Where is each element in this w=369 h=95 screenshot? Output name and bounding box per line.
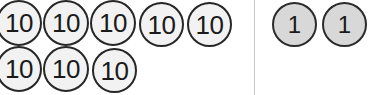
token-ten[interactable]: 10 <box>0 46 42 92</box>
token-ten[interactable]: 10 <box>92 48 137 93</box>
token-value-label: 10 <box>5 56 33 82</box>
token-ten[interactable]: 10 <box>43 0 89 46</box>
token-one[interactable]: 1 <box>322 2 367 47</box>
token-one[interactable]: 1 <box>272 2 317 47</box>
token-ten[interactable]: 10 <box>187 2 232 47</box>
token-ten[interactable]: 10 <box>90 0 136 46</box>
token-value-label: 10 <box>196 11 224 37</box>
token-value-label: 10 <box>101 57 129 83</box>
token-value-label: 10 <box>148 11 176 37</box>
token-value-label: 10 <box>52 10 80 36</box>
token-value-label: 1 <box>338 12 351 36</box>
token-ten[interactable]: 10 <box>0 0 42 46</box>
token-ten[interactable]: 10 <box>43 46 89 92</box>
token-canvas: 10 10 10 10 10 10 10 10 1 1 <box>0 0 369 95</box>
token-value-label: 10 <box>99 10 127 36</box>
token-ten[interactable]: 10 <box>139 2 184 47</box>
place-value-divider <box>254 0 255 95</box>
token-value-label: 10 <box>52 56 80 82</box>
token-value-label: 1 <box>288 12 301 36</box>
token-value-label: 10 <box>5 10 33 36</box>
